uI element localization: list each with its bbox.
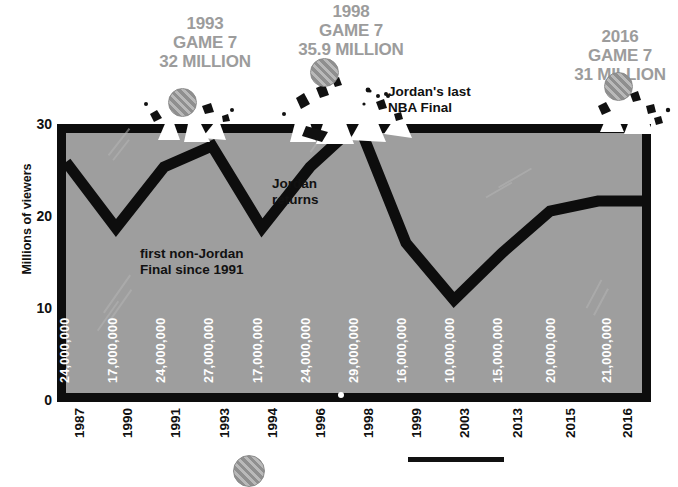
- clipped-headline: [0, 0, 678, 1]
- x-tick-1990: 1990: [120, 408, 135, 438]
- value-label-2003: 10,000,000: [443, 317, 457, 383]
- x-tick-1999: 1999: [409, 408, 424, 438]
- x-tick-1993: 1993: [217, 408, 232, 438]
- basketball-icon: [168, 88, 197, 117]
- value-label-1993: 27,000,000: [202, 317, 216, 383]
- value-label-2015: 20,000,000: [544, 317, 558, 383]
- y-tick-20: 20: [8, 208, 52, 224]
- value-label-2013: 15,000,000: [491, 317, 505, 383]
- y-tick-0: 0: [8, 392, 52, 408]
- leader-dots: [356, 86, 392, 110]
- annotation-jordans-last: Jordan's last NBA Final: [388, 84, 471, 116]
- x-tick-1987: 1987: [72, 408, 87, 438]
- x-tick-1996: 1996: [313, 408, 328, 438]
- x-tick-1994: 1994: [265, 408, 280, 438]
- value-label-2016: 21,000,000: [600, 317, 614, 383]
- value-label-1996: 24,000,000: [299, 317, 313, 383]
- value-label-1987: 24,000,000: [58, 317, 72, 383]
- y-axis-ticks: 0 10 20 30: [0, 0, 52, 471]
- value-label-1994: 17,000,000: [251, 317, 265, 383]
- footer-rule: [408, 457, 504, 462]
- value-label-1999: 16,000,000: [395, 317, 409, 383]
- x-tick-2015: 2015: [563, 408, 578, 438]
- basketball-icon: [310, 58, 339, 87]
- x-tick-2003: 2003: [457, 408, 472, 438]
- callout-1998: 1998 GAME 7 35.9 MILLION: [276, 2, 426, 59]
- x-tick-1998: 1998: [361, 408, 376, 438]
- y-tick-10: 10: [8, 300, 52, 316]
- value-label-1990: 17,000,000: [106, 317, 120, 383]
- value-label-1991: 24,000,000: [154, 317, 168, 383]
- axis-marker-dot: [338, 392, 344, 398]
- basketball-icon: [233, 455, 265, 487]
- x-tick-1991: 1991: [168, 408, 183, 438]
- value-label-1998: 29,000,000: [347, 317, 361, 383]
- y-tick-30: 30: [8, 116, 52, 132]
- x-tick-2013: 2013: [510, 408, 525, 438]
- callout-1993: 1993 GAME 7 32 MILLION: [142, 14, 268, 71]
- annotation-jordan-returns: Jordan returns: [272, 176, 319, 208]
- x-tick-2016: 2016: [620, 408, 635, 438]
- basketball-icon: [604, 72, 633, 101]
- annotation-first-non-jordan: first non-Jordan Final since 1991: [140, 246, 244, 278]
